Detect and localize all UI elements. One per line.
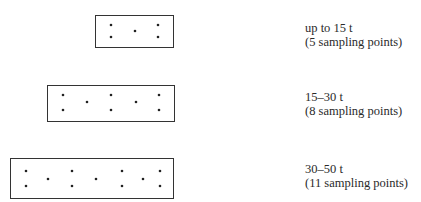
- sampling-point: [135, 101, 138, 104]
- label-up-to-15t: up to 15 t (5 sampling points): [305, 21, 402, 49]
- points-label: (8 sampling points): [305, 104, 402, 118]
- range-label: 30–50 t: [305, 162, 408, 176]
- sampling-point: [121, 185, 124, 188]
- sampling-point: [110, 109, 113, 112]
- load-box-up-to-15t: [96, 16, 174, 48]
- sampling-point: [71, 185, 74, 188]
- sampling-point: [62, 94, 65, 97]
- sampling-point: [71, 170, 74, 173]
- load-box-15-30t: [48, 86, 175, 122]
- sampling-point: [142, 178, 145, 181]
- points-label: (11 sampling points): [305, 176, 408, 190]
- sampling-point: [47, 178, 50, 181]
- range-label: 15–30 t: [305, 90, 402, 104]
- sampling-point: [157, 36, 160, 39]
- sampling-point: [157, 24, 160, 27]
- sampling-point: [158, 109, 161, 112]
- sampling-point: [62, 109, 65, 112]
- load-box-30-50t: [11, 159, 174, 199]
- sampling-point: [110, 36, 113, 39]
- label-15-30t: 15–30 t (8 sampling points): [305, 90, 402, 118]
- sampling-point: [110, 94, 113, 97]
- sampling-point: [134, 30, 137, 33]
- label-30-50t: 30–50 t (11 sampling points): [305, 162, 408, 190]
- load-outline: [48, 86, 175, 122]
- sampling-point: [110, 24, 113, 27]
- sampling-point: [159, 170, 162, 173]
- sampling-point: [158, 94, 161, 97]
- points-label: (5 sampling points): [305, 35, 402, 49]
- sampling-point: [159, 185, 162, 188]
- sampling-point: [95, 178, 98, 181]
- load-outline: [11, 159, 174, 199]
- range-label: up to 15 t: [305, 21, 402, 35]
- sampling-point: [25, 170, 28, 173]
- sampling-point: [86, 101, 89, 104]
- sampling-point: [121, 170, 124, 173]
- sampling-point: [25, 185, 28, 188]
